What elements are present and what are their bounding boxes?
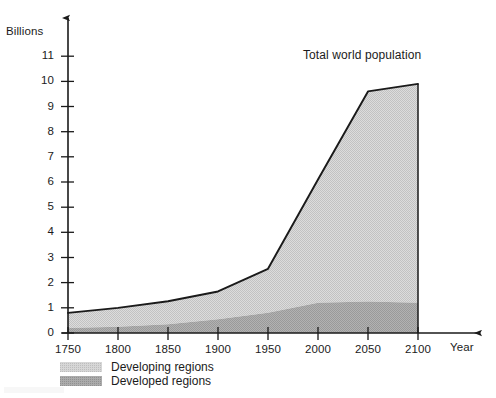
plot-area-fills	[68, 84, 418, 333]
y-tick-label-5: 5	[28, 200, 54, 212]
y-tick-label-7: 7	[28, 150, 54, 162]
chart-canvas	[0, 0, 496, 398]
x-tick-label-1800: 1800	[98, 343, 138, 355]
chart-legend: Developing regions Developed regions	[60, 360, 214, 388]
legend-label-developed: Developed regions	[111, 374, 211, 388]
y-tick-label-8: 8	[28, 125, 54, 137]
legend-item-developing: Developing regions	[60, 360, 214, 374]
population-area-chart: Billions Year Total world population 0 1…	[0, 0, 496, 398]
legend-item-developed: Developed regions	[60, 374, 214, 388]
x-tick-label-2000: 2000	[298, 343, 338, 355]
area-developing-regions	[68, 84, 418, 328]
y-tick-label-1: 1	[28, 301, 54, 313]
developed-swatch-icon	[60, 376, 102, 386]
y-tick-label-10: 10	[22, 74, 54, 86]
y-axis-title: Billions	[6, 25, 43, 37]
x-tick-label-2050: 2050	[348, 343, 388, 355]
x-tick-label-2100: 2100	[398, 343, 438, 355]
developing-swatch-icon	[60, 362, 102, 372]
series-annotation-label: Total world population	[303, 48, 421, 62]
y-tick-label-9: 9	[28, 100, 54, 112]
x-tick-label-1850: 1850	[148, 343, 188, 355]
y-tick-label-0: 0	[28, 326, 54, 338]
x-axis-title: Year	[450, 341, 474, 353]
x-tick-label-1750: 1750	[48, 343, 88, 355]
y-tick-label-6: 6	[28, 175, 54, 187]
x-tick-label-1950: 1950	[248, 343, 288, 355]
y-tick-label-3: 3	[28, 251, 54, 263]
legend-label-developing: Developing regions	[111, 360, 214, 374]
page-edge-artifact	[4, 387, 64, 393]
x-tick-label-1900: 1900	[198, 343, 238, 355]
y-tick-label-11: 11	[22, 49, 54, 61]
y-tick-label-4: 4	[28, 225, 54, 237]
y-tick-label-2: 2	[28, 276, 54, 288]
